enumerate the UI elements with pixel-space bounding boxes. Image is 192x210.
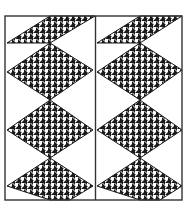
artwork-canvas: Houndstooth zigzag chevron panels <box>0 0 192 210</box>
zigzag-artwork <box>0 0 192 210</box>
